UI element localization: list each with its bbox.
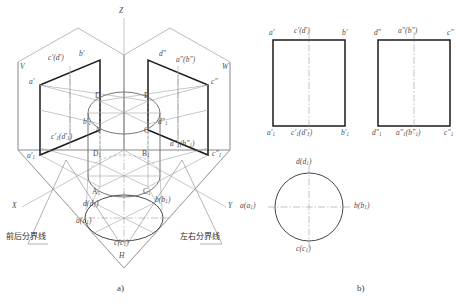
w-plane-label: W xyxy=(222,63,228,71)
caption-a: a) xyxy=(117,283,124,293)
label-b1-prime: b′1 xyxy=(83,118,91,126)
top-view-label-top: d(d1) xyxy=(296,158,312,166)
label-ab-double-prime: a″(b″) xyxy=(176,56,195,64)
label-c1d1-prime: c′1(d′1) xyxy=(51,133,72,141)
side-view-label-c-double-prime: c″ xyxy=(447,29,454,37)
label-d1-double-prime: d″1 xyxy=(158,118,168,126)
caption-b: b) xyxy=(357,283,365,293)
drawing-canvas: .thin { fill:none; stroke:#8c8c8c; strok… xyxy=(0,0,456,305)
label-b-prime: b′ xyxy=(79,50,85,58)
label-point-d: D xyxy=(95,92,101,100)
side-view-label-c1-double-prime: c″1 xyxy=(444,129,453,137)
front-view-rect xyxy=(273,32,345,134)
label-a-prime: a′ xyxy=(29,78,35,86)
front-view-label-a1-prime: a′1 xyxy=(267,129,275,137)
top-view-label-bottom: c(c1) xyxy=(296,245,311,253)
label-point-b: B xyxy=(144,92,149,100)
label-a1b1-double-prime: a″1(b″1) xyxy=(170,140,195,148)
front-view-label-b1-prime: b′1 xyxy=(341,129,349,137)
label-d-double-prime: d″ xyxy=(159,50,166,58)
label-point-c1: C1 xyxy=(143,188,151,196)
top-view-label-right: b(b1) xyxy=(354,202,370,210)
label-a1-prime: a′1 xyxy=(27,152,35,160)
projector-rays-top xyxy=(40,85,208,134)
x-axis-label: X xyxy=(12,202,17,210)
label-c-double-prime: c″ xyxy=(211,78,218,86)
technical-drawing-svg: .thin { fill:none; stroke:#8c8c8c; strok… xyxy=(0,0,456,305)
front-view-label-c1d1-prime: c′1(d′1) xyxy=(291,129,312,137)
front-view-label-cd-prime: c′(d′) xyxy=(294,27,310,35)
label-point-b1: B1 xyxy=(142,150,150,158)
front-view-label-b-prime: b′ xyxy=(342,29,348,37)
label-bb1-h: b(b1) xyxy=(155,196,171,204)
left-right-dividing-line-label: 左右分界线 xyxy=(180,233,220,241)
h-plane-label: H xyxy=(119,252,125,260)
orthographic-assembly xyxy=(268,32,450,248)
y-axis-label: Y xyxy=(228,202,232,210)
label-c1-double-prime: c″1 xyxy=(212,150,221,158)
label-dd1-h: d(d1) xyxy=(83,200,99,208)
label-cc1-h: c(c1) xyxy=(114,239,129,247)
label-point-c: C xyxy=(144,127,149,135)
top-view-label-left: a(a1) xyxy=(240,202,256,210)
front-back-dividing-line-label: 前后分界线 xyxy=(6,233,46,241)
side-view-label-d-double-prime: d″ xyxy=(374,29,381,37)
label-point-a1: A1 xyxy=(92,188,100,196)
side-view-rect xyxy=(378,32,450,134)
z-axis-label: Z xyxy=(119,7,123,15)
side-view-label-d1-double-prime: d″1 xyxy=(372,129,382,137)
label-point-a: A xyxy=(95,127,101,135)
side-view-label-ab-double-prime: a″(b″) xyxy=(398,27,417,35)
side-view-label-a1b1-double-prime: a″1(b″1) xyxy=(396,129,421,137)
label-aa1-h: a(a1) xyxy=(76,217,92,225)
label-point-d1: D1 xyxy=(93,150,101,158)
label-cd-prime: c′(d′) xyxy=(48,54,64,62)
v-plane-label: V xyxy=(20,63,25,71)
top-view-circle xyxy=(268,166,350,248)
front-view-label-a-prime: a′ xyxy=(269,29,275,37)
